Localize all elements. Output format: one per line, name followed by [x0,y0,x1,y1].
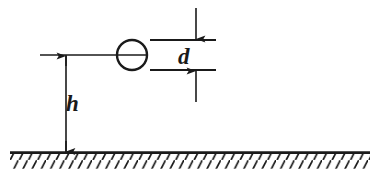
schematic-drawing [0,0,382,189]
diagram-canvas: d h [0,0,382,189]
ground-hatching [10,153,370,169]
height-label: h [66,92,79,115]
diameter-label: d [178,45,190,68]
ground-surface [10,153,370,169]
